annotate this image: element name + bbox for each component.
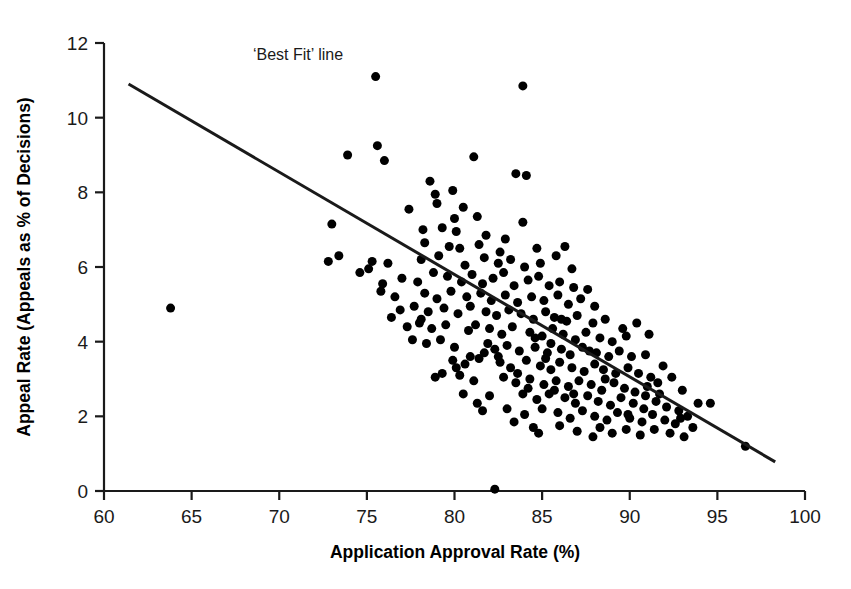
data-point	[324, 257, 333, 266]
data-point	[482, 307, 491, 316]
data-point	[429, 268, 438, 277]
data-point	[450, 343, 459, 352]
data-point	[418, 225, 427, 234]
data-point	[432, 294, 441, 303]
data-point	[553, 408, 562, 417]
data-point	[569, 389, 578, 398]
data-point	[166, 304, 175, 313]
data-point	[532, 395, 541, 404]
data-point	[432, 199, 441, 208]
data-point	[383, 259, 392, 268]
data-point	[518, 81, 527, 90]
y-tick-label-8: 8	[77, 182, 88, 203]
y-tick-label-2: 2	[77, 406, 88, 427]
data-point	[390, 292, 399, 301]
data-point	[473, 399, 482, 408]
data-point	[566, 350, 575, 359]
data-point	[653, 378, 662, 387]
data-point	[587, 380, 596, 389]
data-point	[506, 255, 515, 264]
x-tick-label-80: 80	[444, 506, 465, 527]
y-tick-label-0: 0	[77, 481, 88, 502]
data-point	[431, 190, 440, 199]
data-point	[557, 345, 566, 354]
data-point	[581, 328, 590, 337]
data-point	[688, 423, 697, 432]
data-point	[538, 404, 547, 413]
data-point	[343, 151, 352, 160]
data-point	[438, 369, 447, 378]
data-point	[448, 186, 457, 195]
data-point	[475, 240, 484, 249]
data-point	[659, 361, 668, 370]
data-point	[420, 289, 429, 298]
data-point	[652, 397, 661, 406]
data-point	[604, 352, 613, 361]
data-point	[646, 373, 655, 382]
data-point	[624, 410, 633, 419]
data-point	[438, 223, 447, 232]
data-point	[613, 408, 622, 417]
data-point	[606, 401, 615, 410]
data-point	[571, 399, 580, 408]
data-point	[506, 363, 515, 372]
data-point	[376, 287, 385, 296]
x-tick-label-75: 75	[356, 506, 377, 527]
data-point	[520, 263, 529, 272]
data-point	[503, 341, 512, 350]
data-point	[466, 352, 475, 361]
best-fit-line-annotation: ‘Best Fit’ line	[253, 46, 343, 63]
data-point	[678, 386, 687, 395]
data-point	[629, 399, 638, 408]
y-tick-label-10: 10	[67, 108, 88, 129]
data-point	[601, 375, 610, 384]
data-point	[580, 367, 589, 376]
data-point	[555, 421, 564, 430]
data-point	[420, 238, 429, 247]
best-fit-trendline	[129, 84, 776, 462]
y-tick-label-4: 4	[77, 332, 88, 353]
data-point	[515, 347, 524, 356]
data-point	[680, 432, 689, 441]
x-axis-title: Application Approval Rate (%)	[330, 542, 580, 562]
data-point	[645, 330, 654, 339]
x-tick-label-70: 70	[269, 506, 290, 527]
data-point	[588, 432, 597, 441]
data-point	[452, 227, 461, 236]
data-point	[583, 391, 592, 400]
data-point	[648, 410, 657, 419]
chart-canvas: 024681012 6065707580859095100 ‘Best Fit’…	[0, 0, 851, 589]
data-point	[455, 244, 464, 253]
data-point	[524, 276, 533, 285]
data-point	[578, 406, 587, 415]
data-point	[539, 380, 548, 389]
data-point	[555, 358, 564, 367]
data-point	[583, 285, 592, 294]
data-point	[539, 296, 548, 305]
data-point	[534, 272, 543, 281]
data-point	[638, 417, 647, 426]
data-point	[590, 360, 599, 369]
data-point	[478, 406, 487, 415]
data-point	[434, 251, 443, 260]
data-point	[425, 177, 434, 186]
data-point	[413, 277, 422, 286]
data-point	[327, 220, 336, 229]
data-point	[564, 382, 573, 391]
data-point	[522, 171, 531, 180]
data-point	[608, 429, 617, 438]
data-point	[660, 416, 669, 425]
data-point	[599, 365, 608, 374]
data-point	[485, 391, 494, 400]
data-point	[615, 347, 624, 356]
data-point	[573, 311, 582, 320]
data-point	[706, 399, 715, 408]
data-point	[469, 376, 478, 385]
data-point	[634, 369, 643, 378]
data-point	[609, 378, 618, 387]
y-axis-tick-labels: 024681012	[67, 33, 89, 502]
data-point	[355, 268, 364, 277]
scatter-data-points	[166, 72, 750, 494]
data-point	[436, 335, 445, 344]
data-point	[454, 309, 463, 318]
